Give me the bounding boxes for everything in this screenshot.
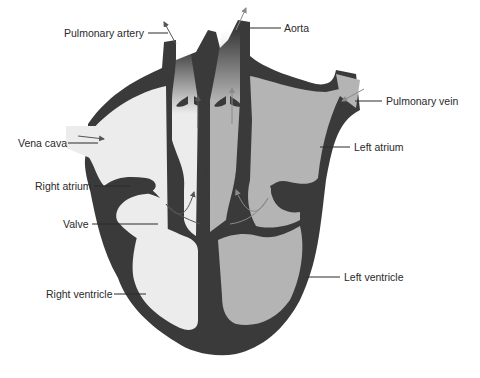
label-aorta: Aorta [284, 22, 309, 34]
label-valve: Valve [63, 218, 89, 230]
label-pulmonary-vein: Pulmonary vein [386, 95, 458, 107]
label-pulmonary-artery: Pulmonary artery [64, 27, 144, 39]
label-left-ventricle: Left ventricle [344, 271, 404, 283]
label-right-atrium: Right atrium [35, 180, 92, 192]
label-right-ventricle: Right ventricle [46, 288, 113, 300]
label-left-atrium: Left atrium [354, 141, 404, 153]
label-vena-cava: Vena cava [18, 137, 67, 149]
